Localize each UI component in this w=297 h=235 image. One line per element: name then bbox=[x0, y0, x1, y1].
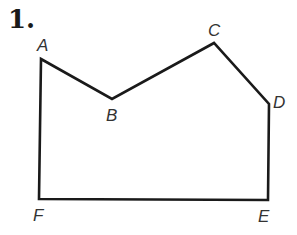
hexagon-figure: A B C D E F bbox=[0, 0, 297, 235]
vertex-label-f: F bbox=[33, 206, 45, 225]
vertex-label-c: C bbox=[208, 21, 221, 40]
vertex-label-b: B bbox=[106, 106, 117, 125]
vertex-label-e: E bbox=[258, 207, 270, 226]
polygon-outline bbox=[39, 43, 269, 200]
vertex-label-a: A bbox=[36, 36, 48, 55]
vertex-label-d: D bbox=[273, 93, 285, 112]
